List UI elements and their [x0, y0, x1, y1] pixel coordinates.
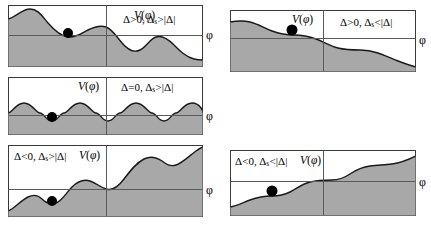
- phi-axis-label-bottom-left: φ: [206, 184, 213, 196]
- panel-top-left-plot: [8, 5, 203, 67]
- panel-top-right: V(φ) Δ>0, Δs<|Δ|: [230, 10, 416, 72]
- phi-axis-label-middle-left: φ: [206, 110, 213, 122]
- phi-axis-label-bottom-right: φ: [419, 176, 426, 188]
- panel-middle-left-plot: [8, 77, 203, 135]
- particle-ball: [267, 186, 278, 197]
- panel-top-right-plot: [230, 10, 416, 72]
- particle-ball: [63, 28, 73, 38]
- panel-top-left: V(φ) Δ>0, Δs>|Δ|: [8, 5, 203, 67]
- particle-ball: [47, 112, 57, 122]
- particle-ball: [47, 196, 57, 206]
- phi-axis-label-top-right: φ: [419, 34, 426, 46]
- panel-bottom-right-plot: [230, 150, 416, 216]
- panel-bottom-left: Δ<0, Δs>|Δ| V(φ): [8, 145, 203, 217]
- phi-axis-label-top-left: φ: [206, 29, 213, 41]
- figure-root: V(φ) Δ>0, Δs>|Δ| φ V(φ) Δ=0, Δs>|Δ| φ: [0, 0, 431, 228]
- panel-middle-left: V(φ) Δ=0, Δs>|Δ|: [8, 77, 203, 135]
- panel-bottom-right: Δ<0, Δs<|Δ| V(φ): [230, 150, 416, 216]
- particle-ball: [287, 25, 298, 36]
- panel-bottom-left-plot: [8, 145, 203, 217]
